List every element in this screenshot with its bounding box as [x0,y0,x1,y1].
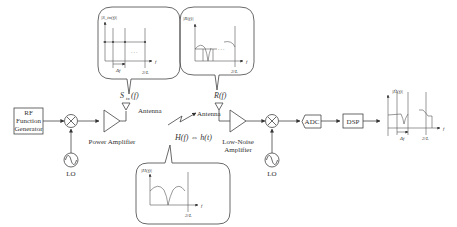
rf-generator-label-1: RF [24,109,33,117]
rx-lo-label: LO [267,170,276,178]
lna-label-2: Amplifier [224,146,252,154]
rf-function-generator-block: RF Function Generator [14,108,43,134]
adc-label: ADC [305,118,320,126]
rx-mixer-icon [266,115,279,128]
power-amplifier-label: Power Amplifier [89,138,137,146]
output-plot-xlabel: f [443,126,445,131]
tx-inset-dots: · · · [131,50,137,55]
tx-spectrum-bubble: |S_tx(f)| f Δf 2/L · · · [98,7,180,94]
dsp-block: DSP [343,114,363,128]
low-noise-amplifier-icon [230,110,246,132]
rx-spectrum-bubble: |R(f)| f 2/L · · · [180,7,254,90]
tx-inset-end: 2/L [142,70,149,75]
lna-label-1: Low-Noise [222,138,254,146]
pa-to-antenna-wire [120,111,126,121]
wireless-channel-arrow [168,113,196,125]
tx-spectrum-arg: (f) [131,91,139,100]
rx-antenna-label: Antenna [197,110,222,118]
rx-lo-oscillator-icon [265,153,279,167]
tx-mixer-icon [65,115,78,128]
output-plot-end: 2/L [422,136,429,141]
tx-antenna-icon [122,103,130,110]
adc-block: ADC [302,115,321,128]
tx-antenna-label: Antenna [138,107,163,115]
tx-inset-xlabel: f [155,59,157,64]
power-amplifier-icon [104,110,120,132]
tx-lo-oscillator-icon [64,153,78,167]
rx-spectrum-label: R(f) [213,91,227,100]
rx-inset-dots: · · · [218,47,224,52]
rx-inset-end: 2/L [231,69,238,74]
tx-lo-label: LO [66,170,75,178]
rx-inset-xlabel: f [246,59,248,64]
tx-inset-df: Δf [115,68,121,73]
signal-chain-diagram: RF Function Generator LO Power Amplifier… [0,0,457,227]
tx-spectrum-subscript: tx [126,96,130,101]
output-spectrum-plot: |Ĥ(f)| f Δf 2/L [388,89,445,141]
output-plot-df: Δf [399,136,405,141]
tx-inset-ylabel: |S_tx(f)| [101,15,117,20]
channel-response-bubble: |H(f)| f 2/L [136,145,230,224]
channel-inset-ylabel: |H(f)| [141,168,152,173]
tx-spectrum-label: S [120,91,124,100]
rx-antenna-icon [215,103,223,110]
rx-inset-ylabel: |R(f)| [183,16,194,21]
output-plot-ylabel: |Ĥ(f)| [392,89,403,94]
channel-inset-end: 2/L [185,213,192,218]
channel-response-label: H(f) ⇔ h(t) [174,133,212,142]
channel-inset-xlabel: f [201,203,203,208]
dsp-label: DSP [347,118,360,126]
rf-generator-label-3: Generator [15,125,44,133]
rf-generator-label-2: Function [16,117,41,125]
